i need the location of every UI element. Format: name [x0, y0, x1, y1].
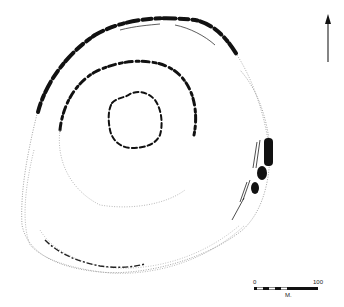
outer-dotted-contour-3	[40, 225, 240, 268]
middle-ring-dotted	[59, 130, 185, 207]
inner-ring-wall	[109, 92, 162, 148]
east-wall-block-2	[257, 166, 267, 180]
outer-dotted-contour-2	[25, 150, 245, 273]
scale-bar	[254, 287, 318, 290]
outer-dotted-contour	[22, 70, 270, 273]
site-plan	[0, 0, 344, 307]
middle-ring-wall	[60, 61, 196, 135]
outer-ring-wall	[38, 18, 237, 112]
outer-ring-inner-line	[120, 24, 215, 45]
outer-ring-dotted-link	[237, 55, 268, 140]
east-wall-block-1	[264, 138, 273, 166]
east-wall-lines	[232, 140, 260, 220]
north-arrow-icon	[325, 14, 331, 62]
scale-start-label: 0	[253, 279, 256, 285]
scale-unit-label: M.	[285, 292, 292, 298]
east-wall-block-3	[251, 182, 259, 194]
scale-end-label: 100	[313, 279, 323, 285]
